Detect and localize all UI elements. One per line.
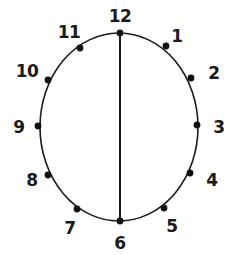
hour-dot-1 <box>163 43 170 50</box>
hour-label-3: 3 <box>213 119 224 136</box>
hour-dot-11 <box>77 45 84 52</box>
hour-label-6: 6 <box>114 235 125 252</box>
hour-dot-12 <box>117 30 124 37</box>
hour-label-1: 1 <box>171 28 182 45</box>
hour-dot-10 <box>45 77 52 84</box>
hour-dot-5 <box>161 205 168 212</box>
hour-label-5: 5 <box>166 218 177 235</box>
hour-dot-8 <box>45 172 52 179</box>
hour-dot-9 <box>35 123 42 130</box>
hour-dot-group <box>35 30 201 225</box>
hour-label-11: 11 <box>58 24 81 41</box>
hour-label-4: 4 <box>206 172 217 189</box>
hour-label-12: 12 <box>109 8 132 25</box>
hour-dot-2 <box>188 75 195 82</box>
hour-label-8: 8 <box>26 172 37 189</box>
hour-label-10: 10 <box>16 63 39 80</box>
clock-face-diagram: 123456789101112 <box>0 0 234 255</box>
clock-drawing-canvas <box>0 0 234 255</box>
hour-label-7: 7 <box>64 220 75 237</box>
hour-dot-4 <box>187 170 194 177</box>
hour-dot-3 <box>194 122 201 129</box>
hour-dot-6 <box>117 218 124 225</box>
clock-outline-group <box>40 33 198 221</box>
hour-label-2: 2 <box>208 65 219 82</box>
hour-label-9: 9 <box>13 119 24 136</box>
hour-dot-7 <box>74 206 81 213</box>
